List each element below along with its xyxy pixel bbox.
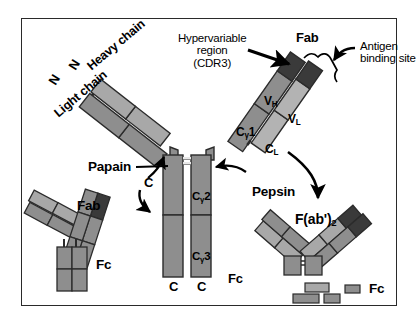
antibody-structure-figure: Hypervariable region (CDR3) Fab Antigen … <box>0 0 420 326</box>
hypervariable-line1: Hypervariable <box>178 32 246 44</box>
hinge-disulfide-bonds <box>183 157 191 164</box>
vh-text: V <box>264 94 272 108</box>
cgamma1-domain-label: Cγ1 <box>236 126 255 141</box>
fab-top-label: Fab <box>296 31 319 45</box>
cg3-text: C <box>192 250 200 262</box>
vl-text: V <box>288 112 296 126</box>
antigen-binding-arrow <box>334 48 355 60</box>
c-terminus-hinge-label: C <box>144 176 153 190</box>
cgamma3-left-domain <box>163 215 183 277</box>
cdr3-arrow <box>248 50 289 64</box>
cg3-number: 3 <box>204 250 210 262</box>
vl-domain-label: VL <box>288 113 301 128</box>
c-terminus-bottom-right-label: C <box>197 280 206 294</box>
vl-subscript: L <box>296 118 301 127</box>
antigen-line2: binding site <box>360 52 416 64</box>
papain-product-arrow <box>139 190 150 212</box>
fab2-label: F(ab')2 <box>295 212 336 229</box>
vh-subscript: H <box>272 100 278 109</box>
cgamma3-right-domain <box>191 215 211 277</box>
cg1-number: 1 <box>249 125 255 139</box>
antigen-line1: Antigen <box>360 40 416 52</box>
vh-domain-label: VH <box>264 95 278 110</box>
fab2-hinge <box>284 256 322 275</box>
pepsin-label: Pepsin <box>252 185 295 200</box>
cgamma3-domain-label: Cγ3 <box>192 250 210 264</box>
hypervariable-line2: region <box>178 44 246 56</box>
fc-right-label: Fc <box>369 282 384 297</box>
fab-left-label: Fab <box>77 199 100 214</box>
fc-stem-label: Fc <box>228 272 243 286</box>
cl-subscript: L <box>273 148 278 157</box>
fc-left-label: Fc <box>96 258 111 273</box>
cdr3-line3: (CDR3) <box>178 57 246 69</box>
fab2-subscript: 2 <box>331 217 336 228</box>
cg2-number: 2 <box>204 190 210 202</box>
papain-label: Papain <box>88 160 131 175</box>
cgamma2-domain-label: Cγ2 <box>192 190 210 204</box>
fab2-text: F(ab') <box>295 211 331 227</box>
cl-domain-label: CL <box>265 143 278 158</box>
hypervariable-region-label: Hypervariable region (CDR3) <box>178 32 246 69</box>
c-terminus-bottom-left-label: C <box>169 280 178 294</box>
cgamma2-right-domain <box>191 155 211 215</box>
antigen-binding-site-label: Antigen binding site <box>360 40 416 65</box>
papain-leader-line <box>136 166 168 167</box>
cgamma2-left-domain <box>163 155 183 215</box>
pepsin-arrow <box>216 166 246 172</box>
left-arm <box>79 79 178 167</box>
papain-fc-fragment <box>57 239 87 291</box>
fc-peptide-fragments <box>293 283 360 303</box>
cg2-text: C <box>192 190 200 202</box>
